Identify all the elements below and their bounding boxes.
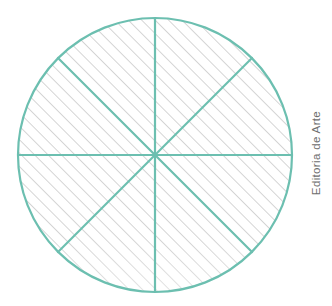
figure-container: Editoria de Arte: [0, 0, 332, 306]
credit-label: Editoria de Arte: [311, 93, 323, 213]
circle-diagram: [0, 0, 332, 306]
hatch-fade-overlay: [0, 0, 332, 306]
